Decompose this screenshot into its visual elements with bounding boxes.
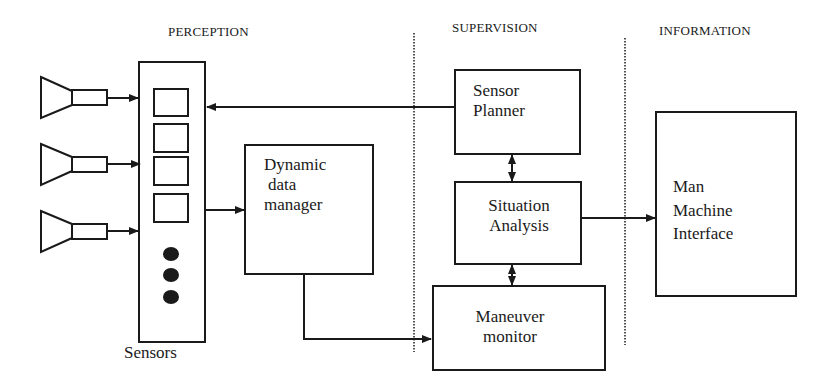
sensor-slot [154, 194, 188, 222]
mmi-line-2: Machine [673, 197, 733, 224]
sensor-slot [154, 89, 188, 116]
antenna-icon [41, 77, 107, 118]
dynamic-data-manager-label: Dynamic data manager [264, 155, 326, 215]
antenna-icon [41, 211, 107, 252]
maneuver-monitor-line-1: Maneuver [465, 307, 555, 327]
sensor-planner-line-2: Planner [473, 101, 525, 121]
sensor-dot [163, 268, 179, 282]
situation-analysis-line-1: Situation [470, 196, 568, 216]
section-perception: PERCEPTION [168, 24, 249, 40]
section-supervision: SUPERVISION [452, 20, 538, 36]
sensors-label: Sensors [124, 343, 177, 363]
arrow-ddm-to-maneuver [304, 274, 431, 339]
antenna-icon [41, 144, 107, 185]
sensor-planner-line-1: Sensor [473, 81, 525, 101]
sensor-slot [154, 124, 188, 152]
sensor-slot [154, 157, 188, 185]
situation-analysis-label: Situation Analysis [470, 196, 568, 236]
sensor-planner-label: Sensor Planner [473, 81, 525, 121]
sensor-dot [163, 247, 179, 261]
ddm-line-2: data [264, 175, 326, 195]
maneuver-monitor-label: Maneuver monitor [465, 307, 555, 347]
situation-analysis-line-2: Analysis [470, 216, 568, 236]
ddm-line-3: manager [264, 195, 326, 215]
ddm-line-1: Dynamic [264, 155, 326, 175]
mmi-line-1: Man [673, 177, 733, 197]
mmi-label: Man Machine Interface [673, 177, 733, 244]
maneuver-monitor-line-2: monitor [465, 327, 555, 347]
sensor-dot [163, 290, 179, 304]
section-information: INFORMATION [659, 23, 751, 39]
mmi-line-3: Interface [673, 224, 733, 244]
